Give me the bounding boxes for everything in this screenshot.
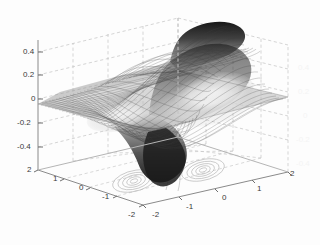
surface-plot-svg xyxy=(0,0,320,245)
x-tick-label: -2 xyxy=(152,211,159,219)
ghost-label: 0.4 xyxy=(298,64,309,72)
x-tick-label: 0 xyxy=(222,194,226,202)
z-tick-label: 0 xyxy=(31,95,35,103)
z-tick-label: 0.2 xyxy=(23,71,34,79)
x-tick-label: 2 xyxy=(290,170,294,178)
y-tick-label: 0 xyxy=(79,184,83,192)
y-tick-label: 2 xyxy=(27,166,31,174)
ghost-label: 0.2 xyxy=(298,88,309,96)
ghost-label: 0 xyxy=(303,112,307,120)
figure-canvas: 0.4 0.2 0 -0.2 -0.4 2 1 0 -1 -2 -2 -1 0 … xyxy=(0,0,320,245)
ghost-label: -0.2 xyxy=(296,136,310,144)
y-tick-label: -1 xyxy=(102,193,109,201)
x-tick-label: 1 xyxy=(257,185,261,193)
surface-mesh xyxy=(38,22,288,187)
y-tick-label: 1 xyxy=(53,175,57,183)
z-tick-label: -0.4 xyxy=(17,143,31,151)
y-tick-label: -2 xyxy=(128,211,135,219)
z-tick-label: -0.2 xyxy=(17,119,31,127)
ghost-label: -0.4 xyxy=(296,160,310,168)
z-tick-label: 0.4 xyxy=(23,48,34,56)
x-tick-label: -1 xyxy=(186,203,193,211)
